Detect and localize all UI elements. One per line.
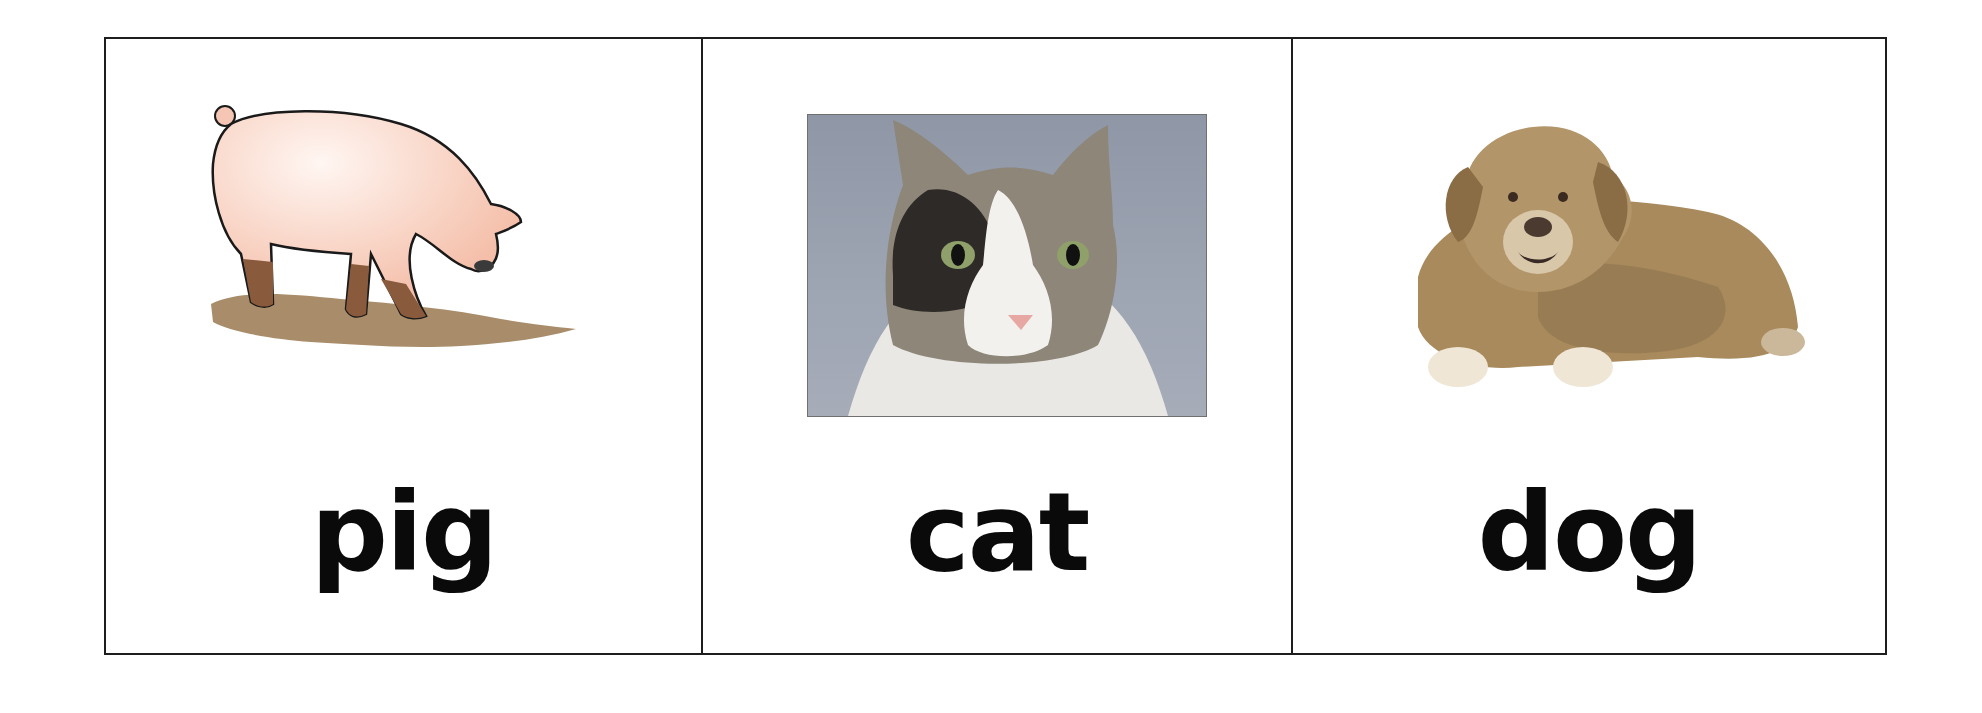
pig-illustration (201, 94, 606, 394)
card-word-cat: cat (703, 479, 1291, 587)
card-cat: cat (701, 39, 1291, 653)
card-pig: pig (106, 39, 701, 653)
card-dog: dog (1291, 39, 1885, 653)
card-word-dog: dog (1293, 479, 1885, 587)
card-word-pig: pig (106, 479, 701, 587)
dog-photo (1398, 117, 1808, 417)
cat-photo (807, 114, 1207, 417)
flashcard-grid: pig cat (104, 37, 1887, 655)
